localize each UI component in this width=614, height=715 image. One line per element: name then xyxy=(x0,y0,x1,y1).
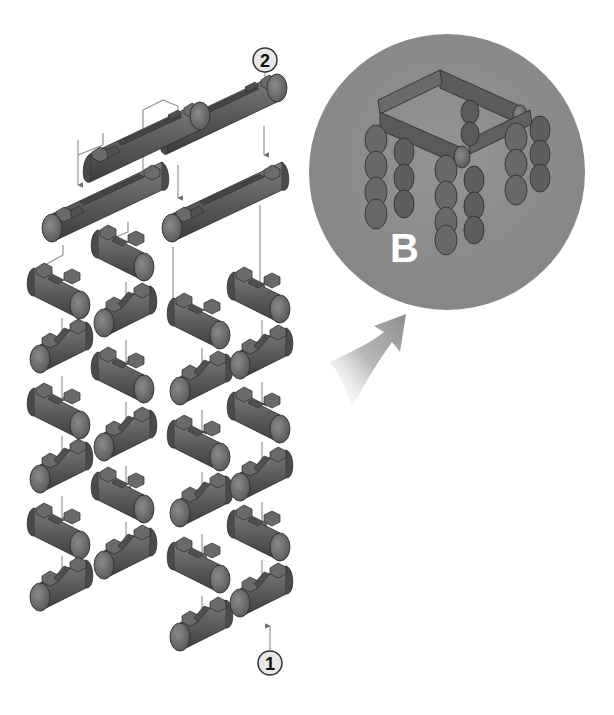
short-log xyxy=(167,537,230,593)
column-2 xyxy=(91,225,157,579)
short-log xyxy=(94,283,157,337)
callout-1: 1 xyxy=(258,651,282,675)
callout-1-label: 1 xyxy=(265,654,275,674)
short-log xyxy=(227,505,290,561)
callout-2-label: 2 xyxy=(260,51,270,71)
short-log xyxy=(227,387,290,443)
column-1 xyxy=(27,263,93,611)
short-log xyxy=(94,525,157,579)
column-3 xyxy=(167,293,233,651)
short-log xyxy=(170,597,233,651)
short-log xyxy=(91,467,154,523)
inset-label: B xyxy=(390,226,419,270)
short-log xyxy=(30,439,93,493)
short-log xyxy=(30,557,93,611)
column-4 xyxy=(227,267,293,617)
short-log xyxy=(230,325,293,379)
short-log xyxy=(170,351,233,405)
short-log xyxy=(227,267,290,323)
short-log xyxy=(27,383,90,439)
long-beams xyxy=(42,74,289,242)
long-beam-lower-right xyxy=(162,162,289,242)
short-log xyxy=(94,407,157,461)
short-log xyxy=(91,225,154,281)
short-log xyxy=(230,447,293,501)
short-log xyxy=(30,319,93,373)
assembly-diagram: 2 1 xyxy=(0,0,614,715)
short-log xyxy=(27,263,90,319)
callout-2: 2 xyxy=(253,48,277,72)
short-log xyxy=(27,503,90,559)
short-log xyxy=(167,415,230,471)
short-log xyxy=(170,473,233,527)
inset-assembled-view: B xyxy=(309,34,585,310)
short-log xyxy=(91,347,154,403)
short-log xyxy=(167,293,230,349)
swoosh-arrow-icon xyxy=(330,314,406,408)
short-log xyxy=(230,563,293,617)
